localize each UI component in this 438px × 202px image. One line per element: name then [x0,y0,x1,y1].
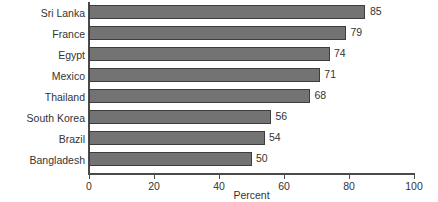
x-axis-title: Percent [89,190,414,201]
bar-value-label: 68 [315,90,327,101]
bar[interactable] [89,110,271,124]
bar-row: 79 [89,26,414,40]
plot-area: 85 79 74 71 68 56 54 50 [89,3,414,173]
bar-value-label: 50 [256,153,268,164]
bar-value-label: 54 [269,132,281,143]
category-label: Egypt [0,50,85,61]
bar[interactable] [89,26,346,40]
bar[interactable] [89,5,365,19]
bar-row: 50 [89,152,414,166]
bar-row: 71 [89,68,414,82]
bar[interactable] [89,68,320,82]
x-axis-tick [349,174,350,179]
bar[interactable] [89,47,330,61]
bar-row: 85 [89,5,414,19]
x-axis-line [88,173,415,175]
x-axis-tick [154,174,155,179]
bar-value-label: 79 [351,27,363,38]
category-label: Brazil [0,134,85,145]
bar-row: 56 [89,110,414,124]
bar-value-label: 74 [334,48,346,59]
category-label: Sri Lanka [0,8,85,19]
category-label: Mexico [0,71,85,82]
category-label: France [0,29,85,40]
bar-value-label: 71 [324,69,336,80]
bar-chart: Sri Lanka France Egypt Mexico Thailand S… [0,0,438,202]
category-label: South Korea [0,113,85,124]
category-axis-labels: Sri Lanka France Egypt Mexico Thailand S… [0,3,85,173]
bar[interactable] [89,89,310,103]
x-axis-tick [89,174,90,179]
category-label: Thailand [0,92,85,103]
bar-row: 74 [89,47,414,61]
bar[interactable] [89,152,252,166]
x-axis-tick [219,174,220,179]
category-label: Bangladesh [0,155,85,166]
bar-value-label: 85 [370,6,382,17]
bar-row: 68 [89,89,414,103]
bar[interactable] [89,131,265,145]
x-axis-tick [284,174,285,179]
x-axis-tick [414,174,415,179]
bar-row: 54 [89,131,414,145]
bar-value-label: 56 [276,111,288,122]
